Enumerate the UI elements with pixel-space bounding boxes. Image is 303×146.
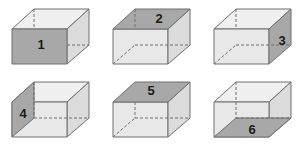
box-6[interactable]: 6 [202, 73, 303, 146]
box-5-face-front [113, 102, 168, 137]
box-2[interactable]: 2 [101, 0, 202, 73]
boxes-figure: 1 2 3 [0, 0, 303, 146]
box-1-label: 1 [37, 37, 44, 52]
box-2-face-front [113, 29, 168, 64]
box-4-label: 4 [19, 106, 27, 121]
box-1-drawing: 1 [0, 0, 101, 73]
box-4-drawing: 4 [0, 73, 101, 146]
box-1[interactable]: 1 [0, 0, 101, 73]
box-6-label: 6 [248, 122, 255, 137]
box-3-face-front [214, 29, 269, 64]
box-6-drawing: 6 [202, 73, 303, 146]
box-3-label: 3 [278, 33, 285, 48]
box-2-drawing: 2 [101, 0, 202, 73]
box-5-drawing: 5 [101, 73, 202, 146]
box-2-label: 2 [155, 11, 162, 26]
box-5-label: 5 [147, 83, 154, 98]
box-3-drawing: 3 [202, 0, 303, 73]
box-3[interactable]: 3 [202, 0, 303, 73]
box-5[interactable]: 5 [101, 73, 202, 146]
box-4[interactable]: 4 [0, 73, 101, 146]
